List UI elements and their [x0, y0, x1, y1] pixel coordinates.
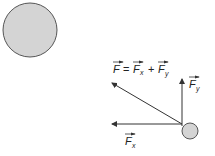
- force-diagram: F = F x + F y F y F x: [0, 0, 215, 156]
- svg-text:y: y: [164, 70, 169, 78]
- fx-label: F x: [125, 134, 136, 149]
- svg-text:=: =: [123, 63, 129, 75]
- svg-text:+: +: [148, 63, 154, 75]
- resultant-arrow: [112, 83, 182, 124]
- small-ball: [182, 123, 198, 139]
- svg-text:F: F: [113, 63, 121, 75]
- svg-text:y: y: [195, 85, 200, 93]
- svg-text:x: x: [139, 69, 144, 76]
- svg-text:x: x: [131, 142, 136, 149]
- fy-label: F y: [189, 77, 200, 93]
- large-ball: [3, 3, 57, 57]
- equation-label: F = F x + F y: [113, 62, 169, 78]
